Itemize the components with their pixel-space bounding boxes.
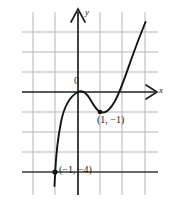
left-point-label: (−1, −4) (59, 165, 92, 175)
point-left (52, 169, 57, 174)
y-axis-label: y (85, 8, 89, 17)
axis-arrowheads (71, 9, 157, 99)
minimum-point-label: (1, −1) (97, 115, 124, 125)
graph-figure: y x 0 (1, −1) (−1, −4) (0, 0, 170, 206)
graph-canvas (0, 0, 170, 206)
origin-label: 0 (74, 76, 79, 86)
x-axis-label: x (159, 86, 163, 95)
